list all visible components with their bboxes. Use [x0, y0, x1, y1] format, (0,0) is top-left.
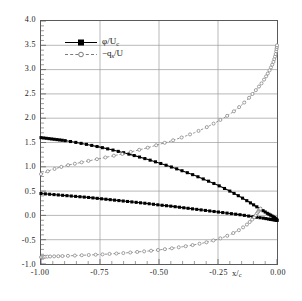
x-tick-label: 0.00 [270, 268, 286, 277]
legend-marker-qs-u [64, 49, 98, 60]
y-tick-label: 0.0 [0, 211, 36, 220]
x-tick-label: -0.25 [209, 268, 228, 277]
legend: φ/Uc −qs/U [62, 36, 125, 61]
y-tick-label: 3.5 [0, 40, 36, 49]
y-tick-label: 4.0 [0, 15, 36, 24]
x-tick-label: -0.75 [90, 268, 109, 277]
x-tick-label: -0.50 [150, 268, 169, 277]
y-tick-label: -0.5 [0, 236, 36, 245]
chart-figure: -1.0-0.50.00.51.01.52.02.53.03.54.0 -1.0… [0, 0, 302, 301]
legend-entry-phi-uc: φ/Uc [64, 37, 123, 48]
y-tick-label: 3.0 [0, 64, 36, 73]
legend-entry-qs-u: −qs/U [64, 49, 123, 60]
y-tick-label: 1.0 [0, 162, 36, 171]
x-axis-title: x/c [232, 268, 242, 278]
legend-label-qs-u: −qs/U [98, 48, 123, 61]
y-tick-label: 2.5 [0, 89, 36, 98]
y-tick-label: 1.5 [0, 138, 36, 147]
x-axis-tick-labels: -1.00-0.75-0.50-0.250.00 [0, 268, 302, 286]
y-axis-tick-labels: -1.0-0.50.00.51.01.52.02.53.03.54.0 [0, 20, 302, 265]
y-tick-label: 2.0 [0, 113, 36, 122]
legend-marker-phi-uc [64, 37, 98, 48]
x-tick-label: -1.00 [31, 268, 50, 277]
y-tick-label: 0.5 [0, 187, 36, 196]
